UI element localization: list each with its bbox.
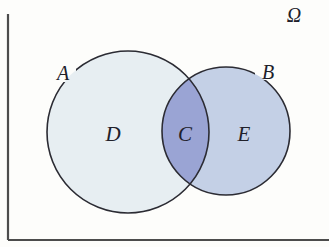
region-c-label: C [178, 122, 193, 146]
venn-diagram-canvas: Ω A B D C E [0, 0, 329, 247]
region-e-label: E [237, 122, 251, 146]
set-a-label: A [55, 62, 70, 84]
set-b-label: B [262, 61, 274, 83]
region-d-label: D [104, 122, 120, 146]
universe-label: Ω [287, 4, 301, 26]
venn-diagram-figure: Ω A B D C E [0, 0, 329, 247]
